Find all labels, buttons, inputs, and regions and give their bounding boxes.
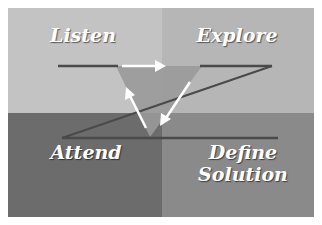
label-explore: Explore <box>182 24 292 46</box>
label-define-solution: Define Solution <box>188 141 298 185</box>
label-define-line1: Define <box>188 141 298 163</box>
label-attend: Attend <box>36 141 136 163</box>
label-define-line2: Solution <box>188 163 298 185</box>
center-triangle <box>116 66 202 137</box>
label-listen: Listen <box>38 24 128 46</box>
